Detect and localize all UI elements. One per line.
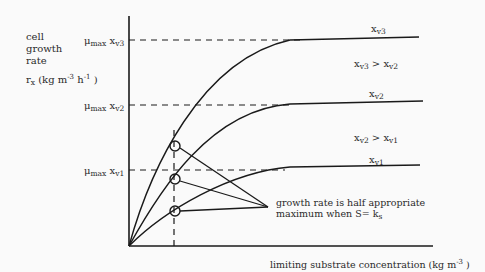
- comparison-v2-v1: xv2 > xv1: [354, 132, 398, 146]
- half-max-marker-v3: [170, 141, 180, 151]
- pointer-line-v1: [180, 207, 268, 211]
- units-part: ): [463, 259, 470, 270]
- ks-subscript: s: [378, 212, 382, 221]
- y-axis-units: rx (kg m-3 h-1 ): [26, 72, 98, 88]
- x-symbol: x: [106, 165, 115, 176]
- tick-label-v2: μmax xv2: [84, 100, 124, 114]
- curve-label-v1: xv1: [369, 154, 384, 168]
- annotation-line2: maximum when S= ks: [276, 208, 382, 222]
- curve-v2: [129, 101, 423, 246]
- curve-label-v2: xv2: [369, 88, 384, 102]
- x-subscript: v3: [377, 27, 386, 36]
- mu-subscript: max: [91, 104, 107, 113]
- y-axis-title-line1: cell: [26, 31, 44, 42]
- annotation-text: maximum when S= k: [276, 208, 378, 219]
- x-axis-title-text: limiting substrate concentration (kg m: [270, 259, 456, 270]
- units-part: h: [74, 74, 84, 85]
- x-subscript: v1: [115, 169, 124, 178]
- x-subscript: v2: [360, 136, 369, 145]
- x-subscript: v1: [375, 158, 384, 167]
- x-subscript: v3: [360, 62, 369, 71]
- comparison-operator: >: [369, 58, 384, 69]
- comparison-v3-v2: xv3 > xv2: [354, 58, 398, 72]
- x-symbol: x: [106, 35, 115, 46]
- mu-subscript: max: [91, 169, 107, 178]
- units-exponent: -1: [84, 73, 91, 81]
- tick-label-v3: μmax xv3: [84, 35, 124, 49]
- units-part: (kg m: [35, 74, 67, 85]
- x-symbol: x: [106, 100, 115, 111]
- pointer-line-v2: [180, 181, 268, 207]
- x-subscript: v2: [115, 104, 124, 113]
- y-axis-title-line2: growth: [26, 43, 62, 54]
- annotation-line1: growth rate is half appropriate: [276, 197, 425, 208]
- units-part: ): [91, 74, 98, 85]
- units-exponent: -3: [456, 258, 463, 266]
- x-subscript: v1: [389, 136, 398, 145]
- x-subscript: v2: [375, 92, 384, 101]
- x-subscript: v2: [389, 62, 398, 71]
- tick-label-v1: μmax xv1: [84, 165, 124, 179]
- comparison-operator: >: [369, 132, 384, 143]
- x-subscript: v3: [115, 39, 124, 48]
- x-axis-title: limiting substrate concentration (kg m-3…: [270, 257, 470, 270]
- diagram-canvas: cell growth rate rx (kg m-3 h-1 ) μmax x…: [0, 0, 485, 272]
- curve-label-v3: xv3: [371, 23, 386, 37]
- diagram-graphics: [0, 0, 485, 272]
- mu-subscript: max: [91, 39, 107, 48]
- y-axis-title-line3: rate: [26, 55, 47, 66]
